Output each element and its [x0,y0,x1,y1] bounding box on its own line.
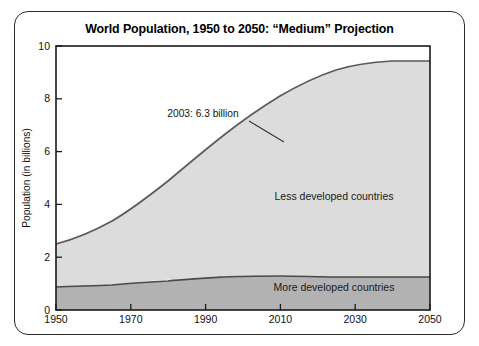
y-tick-label-6: 6 [44,145,50,157]
y-axis-tick-labels: 0 2 4 6 8 10 [38,40,50,316]
chart-plot-svg: 0 2 4 6 8 10 1950 1970 1990 2010 2030 20… [0,0,479,346]
x-axis-tick-labels: 1950 1970 1990 2010 2030 2050 [44,313,442,325]
y-tick-label-10: 10 [38,40,50,52]
band-label-less-developed: Less developed countries [274,190,393,202]
y-tick-label-4: 4 [44,198,50,210]
x-tick-label-1970: 1970 [119,313,143,325]
y-tick-label-2: 2 [44,251,50,263]
x-tick-label-2050: 2050 [418,313,442,325]
annotation-2003-population: 2003: 6.3 billion [167,108,238,119]
y-tick-label-8: 8 [44,92,50,104]
band-label-more-developed: More developed countries [274,281,395,293]
x-tick-label-2010: 2010 [269,313,293,325]
chart-figure: World Population, 1950 to 2050: “Medium”… [0,0,479,346]
y-axis-title: Population (in billions) [21,128,32,228]
x-tick-label-1990: 1990 [194,313,218,325]
x-tick-label-2030: 2030 [344,313,368,325]
x-tick-label-1950: 1950 [44,313,68,325]
